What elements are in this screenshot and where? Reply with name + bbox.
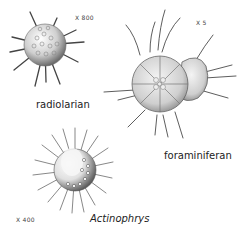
actinophrys-drawing — [33, 128, 113, 213]
illustration-canvas — [0, 0, 244, 230]
actinophrys-magnification: X 400 — [16, 216, 35, 223]
radiolarian-magnification: X 800 — [75, 14, 94, 21]
radiolarian-drawing — [10, 12, 84, 86]
actinophrys-label: Actinophrys — [90, 213, 149, 224]
radiolarian-label: radiolarian — [36, 99, 90, 110]
foraminiferan-magnification: X 5 — [196, 19, 207, 26]
foraminiferan-drawing — [104, 10, 236, 138]
foraminiferan-label: foraminiferan — [164, 150, 232, 161]
